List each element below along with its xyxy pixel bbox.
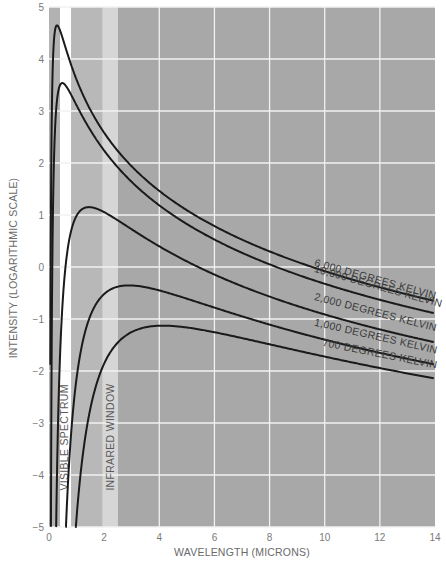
infrared-window-label: INFRARED WINDOW — [104, 383, 116, 490]
x-tick-label: 0 — [46, 532, 52, 543]
x-tick-label: 8 — [267, 532, 273, 543]
y-tick-label: 3 — [38, 106, 44, 117]
y-tick-label: 2 — [38, 158, 44, 169]
blackbody-radiation-chart: VISIBLE SPECTRUM INFRARED WINDOW 10,000 … — [0, 0, 446, 567]
y-tick-label: −1 — [33, 314, 45, 325]
x-tick-label: 2 — [101, 532, 107, 543]
y-tick-label: −4 — [33, 470, 45, 481]
y-tick-label: −2 — [33, 366, 45, 377]
y-tick-label: 5 — [38, 2, 44, 13]
x-tick-label: 4 — [157, 532, 163, 543]
x-tick-label: 14 — [429, 532, 441, 543]
x-tick-label: 6 — [212, 532, 218, 543]
x-tick-label: 12 — [374, 532, 386, 543]
y-tick-label: 4 — [38, 54, 44, 65]
y-tick-label: 1 — [38, 210, 44, 221]
y-tick-label: −5 — [33, 522, 45, 533]
y-tick-label: −3 — [33, 418, 45, 429]
x-axis-title: WAVELENGTH (MICRONS) — [174, 546, 310, 558]
x-tick-label: 10 — [319, 532, 331, 543]
x-axis-ticks: 02468101214 — [46, 532, 441, 543]
y-tick-label: 0 — [38, 262, 44, 273]
y-axis-ticks: 543210−1−2−3−4−5 — [33, 2, 45, 533]
y-axis-title: INTENSITY (LOGARITHMIC SCALE) — [7, 178, 19, 359]
